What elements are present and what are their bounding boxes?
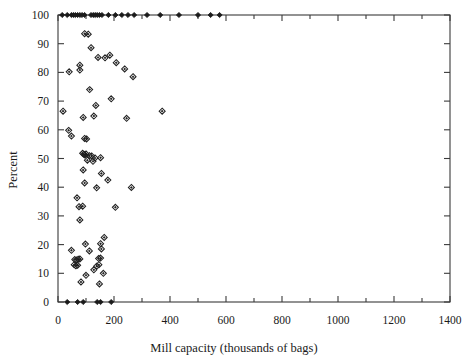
y-tick-label: 30	[38, 210, 50, 222]
data-point-filled	[125, 12, 130, 17]
data-point-center	[93, 115, 95, 117]
data-point-center	[110, 98, 112, 100]
data-point-center	[85, 275, 87, 277]
data-point-center	[76, 197, 78, 199]
plot-border	[58, 15, 450, 302]
data-point-center	[94, 157, 96, 159]
data-point-center	[68, 71, 70, 73]
x-tick-label: 400	[161, 314, 179, 326]
data-point-center	[89, 250, 91, 252]
y-axis-ticks	[58, 15, 450, 302]
data-point-center	[104, 57, 106, 59]
data-point-center	[101, 248, 103, 250]
data-point-center	[85, 153, 87, 155]
data-point-filled	[81, 299, 86, 304]
x-tick-label: 1400	[439, 314, 462, 326]
data-point-center	[101, 173, 103, 175]
y-tick-label: 10	[38, 267, 50, 279]
data-point-center	[100, 157, 102, 159]
data-point-center	[115, 207, 117, 209]
y-tick-label: 50	[38, 153, 50, 165]
y-tick-label: 20	[38, 239, 50, 251]
x-tick-label: 800	[273, 314, 291, 326]
data-point-center	[99, 283, 101, 285]
data-point-center	[89, 89, 91, 91]
data-point-filled	[98, 299, 103, 304]
data-point-center	[100, 257, 102, 259]
data-point-center	[91, 155, 93, 157]
data-point-center	[79, 64, 81, 66]
data-point-center	[96, 187, 98, 189]
x-tick-label: 0	[55, 314, 61, 326]
y-tick-label: 40	[38, 181, 50, 193]
data-point-filled	[195, 12, 200, 17]
y-axis-title: Percent	[6, 151, 20, 189]
data-point-center	[84, 182, 86, 184]
data-point-filled	[217, 12, 222, 17]
y-tick-label: 60	[38, 124, 50, 136]
data-point-center	[80, 281, 82, 283]
data-point-filled	[132, 12, 137, 17]
data-point-center	[126, 118, 128, 120]
y-tick-label: 70	[38, 95, 50, 107]
x-tick-label: 1000	[327, 314, 350, 326]
data-point-center	[103, 273, 105, 275]
data-point-center	[103, 237, 105, 239]
scatter-plot-figure: 0200400600800100012001400 01020304050607…	[0, 0, 469, 363]
data-point-center	[82, 117, 84, 119]
data-point-filled	[208, 12, 213, 17]
chart-canvas: 0200400600800100012001400 01020304050607…	[0, 0, 469, 363]
x-axis-title: Mill capacity (thousands of bags)	[150, 341, 317, 355]
data-point-center	[87, 33, 89, 35]
y-tick-label: 100	[32, 9, 50, 21]
data-point-center	[82, 169, 84, 171]
data-point-center	[68, 130, 70, 132]
plot-frame	[58, 15, 450, 302]
y-axis-tick-labels: 0102030405060708090100	[32, 9, 50, 308]
data-point-center	[107, 179, 109, 181]
data-point-center	[98, 264, 100, 266]
data-point-center	[79, 258, 81, 260]
y-tick-label: 80	[38, 66, 50, 78]
data-point-center	[124, 68, 126, 70]
data-point-filled	[109, 299, 114, 304]
data-point-center	[97, 57, 99, 59]
data-point-center	[93, 269, 95, 271]
data-point-center	[92, 161, 94, 163]
data-point-center	[95, 105, 97, 107]
data-point-filled	[176, 12, 181, 17]
data-point-filled	[144, 12, 149, 17]
x-tick-label: 200	[105, 314, 123, 326]
data-point-filled	[119, 12, 124, 17]
data-point-center	[132, 76, 134, 78]
data-point-center	[79, 219, 81, 221]
data-point-center	[161, 110, 163, 112]
data-point-center	[86, 138, 88, 140]
data-point-center	[109, 54, 111, 56]
data-point-center	[71, 135, 73, 137]
data-point-center	[87, 159, 89, 161]
data-point-center	[82, 205, 84, 207]
data-point-center	[100, 243, 102, 245]
data-point-center	[77, 265, 79, 267]
data-point-center	[90, 47, 92, 49]
x-tick-label: 600	[217, 314, 235, 326]
data-point-center	[131, 187, 133, 189]
data-point-center	[115, 62, 117, 64]
data-point-center	[85, 243, 87, 245]
data-point-filled	[158, 12, 163, 17]
data-point-center	[71, 250, 73, 252]
data-point-center	[79, 69, 81, 71]
data-point-filled	[75, 299, 80, 304]
x-axis-tick-labels: 0200400600800100012001400	[55, 314, 462, 326]
x-tick-label: 1200	[383, 314, 406, 326]
data-point-filled	[65, 299, 70, 304]
y-tick-label: 90	[38, 38, 50, 50]
data-point-center	[62, 110, 64, 112]
y-tick-label: 0	[43, 296, 49, 308]
data-points	[60, 12, 223, 304]
data-point-filled	[106, 12, 111, 17]
data-point-filled	[60, 12, 65, 17]
x-axis-ticks	[58, 15, 450, 302]
